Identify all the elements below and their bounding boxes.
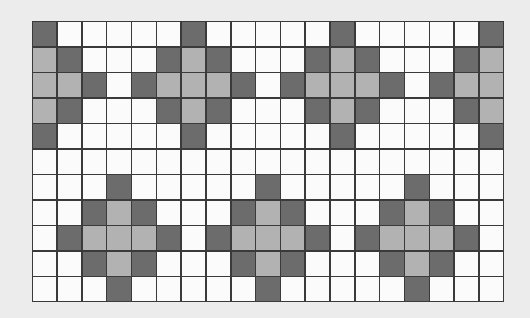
grid-cell: [356, 252, 379, 276]
grid-cell: [455, 175, 478, 199]
grid-cell: [33, 48, 56, 72]
grid-cell: [232, 73, 255, 97]
grid-cell: [480, 277, 503, 301]
grid-cell: [331, 124, 354, 148]
grid-cell: [281, 277, 304, 301]
grid-cell: [256, 175, 279, 199]
grid-cell: [132, 73, 155, 97]
grid-cell: [405, 175, 428, 199]
grid-cell: [107, 124, 130, 148]
grid-cell: [58, 73, 81, 97]
grid-cell: [107, 99, 130, 123]
grid-cell: [83, 252, 106, 276]
grid-cell: [331, 252, 354, 276]
grid-cell: [232, 201, 255, 225]
grid-cell: [107, 48, 130, 72]
grid-cell: [157, 124, 180, 148]
grid-cell: [182, 175, 205, 199]
grid-cell: [157, 99, 180, 123]
grid-cell: [281, 201, 304, 225]
grid-cell: [256, 22, 279, 46]
grid-cell: [33, 99, 56, 123]
grid-cell: [207, 175, 230, 199]
grid-cell: [331, 22, 354, 46]
grid-cell: [331, 99, 354, 123]
grid-cell: [132, 277, 155, 301]
grid-cell: [480, 201, 503, 225]
grid-cell: [157, 226, 180, 250]
grid-cell: [83, 150, 106, 174]
grid-cell: [107, 22, 130, 46]
grid-cell: [405, 277, 428, 301]
grid-cell: [132, 99, 155, 123]
grid-cell: [380, 150, 403, 174]
grid-cell: [33, 150, 56, 174]
grid-cell: [132, 252, 155, 276]
grid-cell: [33, 277, 56, 301]
grid-cell: [380, 226, 403, 250]
grid-cell: [232, 226, 255, 250]
grid-cell: [380, 73, 403, 97]
grid-cell: [405, 150, 428, 174]
grid-cell: [157, 73, 180, 97]
grid-cell: [58, 22, 81, 46]
grid-cell: [132, 150, 155, 174]
grid-cell: [430, 201, 453, 225]
grid-cell: [83, 175, 106, 199]
grid-cell: [430, 48, 453, 72]
grid-cell: [207, 201, 230, 225]
grid-cell: [455, 73, 478, 97]
grid-cell: [405, 99, 428, 123]
grid-cell: [58, 150, 81, 174]
grid-cell: [232, 175, 255, 199]
grid-cell: [33, 226, 56, 250]
grid-cell: [58, 175, 81, 199]
grid-cell: [455, 124, 478, 148]
grid-cell: [132, 175, 155, 199]
grid-cell: [331, 201, 354, 225]
grid-cell: [256, 48, 279, 72]
grid-cell: [182, 22, 205, 46]
grid-cell: [281, 99, 304, 123]
grid-cell: [455, 150, 478, 174]
grid-cell: [380, 175, 403, 199]
grid-cell: [405, 226, 428, 250]
grid-cell: [83, 226, 106, 250]
grid-cell: [232, 48, 255, 72]
grid-cell: [207, 150, 230, 174]
grid-cell: [306, 201, 329, 225]
grid-cell: [480, 22, 503, 46]
grid-cell: [430, 252, 453, 276]
grid-cell: [132, 226, 155, 250]
grid-cell: [480, 73, 503, 97]
grid-cell: [430, 22, 453, 46]
grid-cell: [430, 277, 453, 301]
grid-cell: [107, 226, 130, 250]
grid-cell: [207, 252, 230, 276]
grid-cell: [331, 277, 354, 301]
grid-cell: [480, 252, 503, 276]
grid-cell: [356, 201, 379, 225]
grid-cell: [83, 99, 106, 123]
grid-cell: [480, 124, 503, 148]
grid-cell: [281, 73, 304, 97]
grid-cell: [306, 226, 329, 250]
grid-cell: [256, 99, 279, 123]
grid-cell: [33, 175, 56, 199]
grid-cell: [455, 226, 478, 250]
grid-cell: [58, 226, 81, 250]
grid-cell: [157, 277, 180, 301]
grid-cell: [132, 48, 155, 72]
grid-cell: [157, 22, 180, 46]
grid-cell: [405, 252, 428, 276]
grid-cell: [182, 277, 205, 301]
grid-cell: [33, 124, 56, 148]
grid-cell: [480, 48, 503, 72]
grid-cell: [455, 48, 478, 72]
grid-cell: [157, 252, 180, 276]
grid-cell: [306, 252, 329, 276]
grid-cell: [430, 175, 453, 199]
grid-cell: [331, 48, 354, 72]
grid-cell: [356, 22, 379, 46]
grid-cell: [33, 252, 56, 276]
